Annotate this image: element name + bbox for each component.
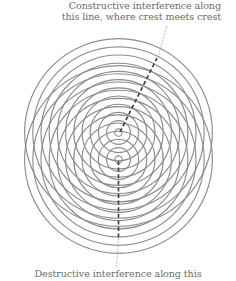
wavefront-ring [33, 74, 204, 245]
constructive-label-line-1: Constructive interference along [62, 1, 221, 12]
constructive-interference-label: Constructive interference along this lin… [62, 1, 221, 22]
lower-source-wavefronts [25, 66, 213, 254]
destructive-interference-label: Destructive interference along this [0, 269, 236, 280]
constructive-interference-line [120, 58, 157, 132]
wavefront-ring [33, 47, 204, 218]
wavefront-ring [98, 112, 138, 152]
destructive-label-line-1: Destructive interference along this [0, 269, 236, 280]
upper-source-wavefronts [25, 39, 213, 227]
wavefront-ring [25, 39, 213, 227]
constructive-label-line-2: this line, where crest meets crest [62, 12, 221, 23]
constructive-leader-line [158, 26, 167, 57]
wavefront-ring [25, 66, 213, 254]
wavefront-ring [98, 139, 138, 179]
interference-diagram [0, 0, 236, 281]
